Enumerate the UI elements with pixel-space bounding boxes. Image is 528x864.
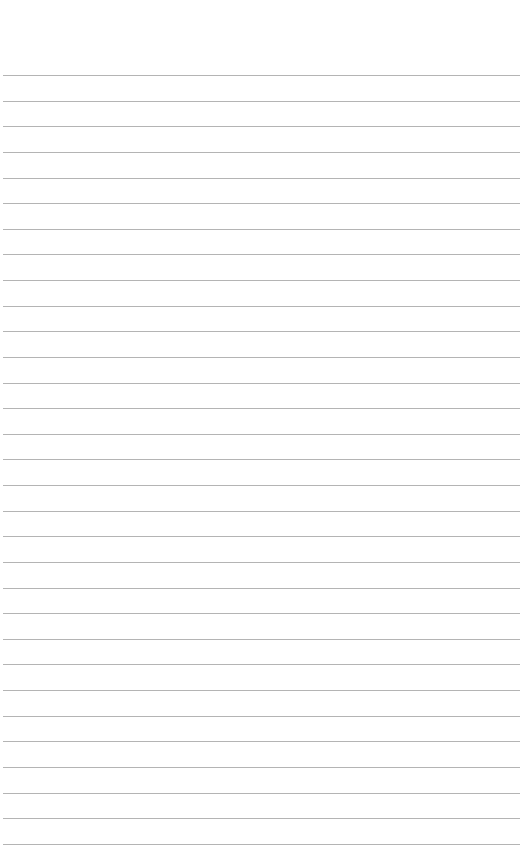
ruled-line bbox=[3, 178, 520, 179]
ruled-line bbox=[3, 331, 520, 332]
ruled-line bbox=[3, 383, 520, 384]
ruled-line bbox=[3, 408, 520, 409]
ruled-line bbox=[3, 588, 520, 589]
ruled-line bbox=[3, 741, 520, 742]
ruled-line bbox=[3, 203, 520, 204]
ruled-line bbox=[3, 562, 520, 563]
ruled-line bbox=[3, 152, 520, 153]
ruled-line bbox=[3, 357, 520, 358]
ruled-line bbox=[3, 664, 520, 665]
ruled-line bbox=[3, 75, 520, 76]
ruled-line bbox=[3, 716, 520, 717]
ruled-line bbox=[3, 459, 520, 460]
ruled-line bbox=[3, 101, 520, 102]
ruled-line bbox=[3, 844, 520, 845]
ruled-line bbox=[3, 306, 520, 307]
lined-paper-page bbox=[0, 0, 528, 864]
ruled-line bbox=[3, 229, 520, 230]
ruled-line bbox=[3, 254, 520, 255]
ruled-line bbox=[3, 511, 520, 512]
ruled-line bbox=[3, 613, 520, 614]
ruled-line bbox=[3, 485, 520, 486]
ruled-line bbox=[3, 536, 520, 537]
ruled-line bbox=[3, 690, 520, 691]
ruled-line bbox=[3, 434, 520, 435]
ruled-line bbox=[3, 793, 520, 794]
ruled-line bbox=[3, 639, 520, 640]
ruled-line bbox=[3, 280, 520, 281]
ruled-line bbox=[3, 767, 520, 768]
ruled-line bbox=[3, 818, 520, 819]
ruled-line bbox=[3, 126, 520, 127]
